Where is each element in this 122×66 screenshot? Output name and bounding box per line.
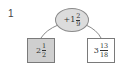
denominator: 18	[100, 52, 108, 59]
numerator: 13	[100, 43, 108, 50]
operator-fraction: 2 9	[76, 13, 80, 28]
result-whole: 3	[94, 47, 99, 55]
start-value-box: 2 1 2	[27, 38, 55, 63]
operator-node: + 1 2 9	[55, 8, 89, 32]
denominator: 2	[42, 52, 46, 59]
operator-whole: 1	[70, 16, 75, 24]
numerator: 2	[76, 13, 80, 20]
numerator: 1	[42, 43, 46, 50]
result-fraction: 13 18	[100, 43, 108, 58]
denominator: 9	[76, 21, 80, 28]
start-fraction: 1 2	[42, 43, 46, 58]
operator-sign: +	[64, 16, 71, 24]
start-whole: 2	[36, 47, 41, 55]
result-value-box: 3 13 18	[87, 38, 115, 63]
